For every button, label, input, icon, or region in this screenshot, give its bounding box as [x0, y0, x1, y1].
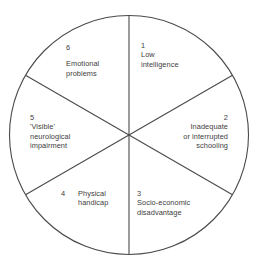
wheel-diagram: 1 Low intelligence 2 Inadequate or inter… [0, 0, 257, 269]
sector-label-5: 5 'Visible' neurological impairment [30, 113, 70, 151]
sector-text-2-line-1: Inadequate [128, 122, 228, 131]
sector-label-6: 6 Emotional problems [66, 43, 99, 78]
sector-number-6: 6 [66, 43, 99, 52]
sector-text-1-line-2: intelligence [141, 60, 179, 69]
sector-text-5-line-2: neurological [30, 132, 70, 141]
sector-text-6-line-1: Emotional [66, 59, 99, 68]
sector-text-3-line-2: disadvantage [137, 208, 190, 217]
sector-text-4-line-1: Physical [78, 189, 106, 198]
sector-text-6-line-2: problems [66, 69, 99, 78]
sector-label-1: 1 Low intelligence [141, 41, 179, 69]
sector-number-4: 4 [61, 189, 78, 198]
sector-label-2: 2 Inadequate or interrupted schooling [128, 113, 228, 151]
sector-number-2: 2 [128, 113, 228, 122]
sector-label-3: 3 Socio-economic disadvantage [137, 189, 190, 217]
sector-label-4: 4Physical handicap [61, 189, 108, 208]
sector-number-5: 5 [30, 113, 70, 122]
sector-text-1-line-1: Low [141, 50, 179, 59]
sector-number-1: 1 [141, 41, 179, 50]
sector-text-5-line-3: impairment [30, 141, 70, 150]
sector-text-2-line-2: or interrupted [128, 132, 228, 141]
sector-number-3: 3 [137, 189, 190, 198]
sector-4-first-row: 4Physical [61, 189, 108, 198]
sector-text-5-line-1: 'Visible' [30, 122, 70, 131]
sector-text-3-line-1: Socio-economic [137, 198, 190, 207]
sector-text-4-line-2: handicap [61, 198, 108, 207]
sector-text-2-line-3: schooling [128, 141, 228, 150]
